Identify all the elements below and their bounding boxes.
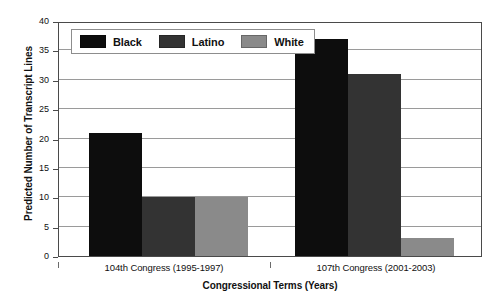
bar: [89, 133, 142, 256]
bar: [142, 197, 195, 256]
x-axis-separator-tick: [58, 262, 59, 268]
y-axis-tick-label: 5: [44, 222, 49, 232]
legend-swatch-icon: [159, 35, 185, 48]
y-axis-tick-label: 30: [39, 75, 49, 85]
bar: [401, 238, 454, 256]
y-axis-tick-label: 10: [39, 192, 49, 202]
y-axis-tick-label: 20: [39, 134, 49, 144]
x-axis-title: Congressional Terms (Years): [58, 280, 482, 291]
legend-swatch-icon: [241, 35, 267, 48]
x-axis-category-label: 107th Congress (2001-2003): [270, 262, 482, 273]
legend-item: White: [241, 35, 303, 48]
bar: [348, 74, 401, 256]
y-axis-tick-label: 35: [39, 45, 49, 55]
y-axis-tick-label: 40: [39, 16, 49, 26]
y-axis-tick-label: 0: [44, 251, 49, 261]
bar-chart: Predicted Number of Transcript Lines 051…: [0, 0, 500, 295]
legend-item: Latino: [159, 35, 224, 48]
y-axis-tick-label: 15: [39, 163, 49, 173]
legend-label: White: [274, 36, 303, 48]
legend-label: Black: [113, 36, 142, 48]
y-axis-ticks: 0510152025303540: [0, 22, 58, 257]
y-axis-tick-mark: [53, 257, 58, 258]
legend: BlackLatinoWhite: [71, 29, 315, 54]
plot-area: BlackLatinoWhite: [58, 22, 482, 257]
bar: [195, 197, 248, 256]
x-axis-category-labels: 104th Congress (1995-1997)107th Congress…: [58, 262, 482, 278]
bars-layer: [59, 23, 481, 256]
legend-swatch-icon: [80, 35, 106, 48]
legend-item: Black: [80, 35, 142, 48]
x-axis-category-label: 104th Congress (1995-1997): [58, 262, 270, 273]
bar: [295, 39, 348, 256]
legend-label: Latino: [192, 36, 224, 48]
x-axis-separator-tick: [270, 262, 271, 268]
y-axis-tick-label: 25: [39, 104, 49, 114]
